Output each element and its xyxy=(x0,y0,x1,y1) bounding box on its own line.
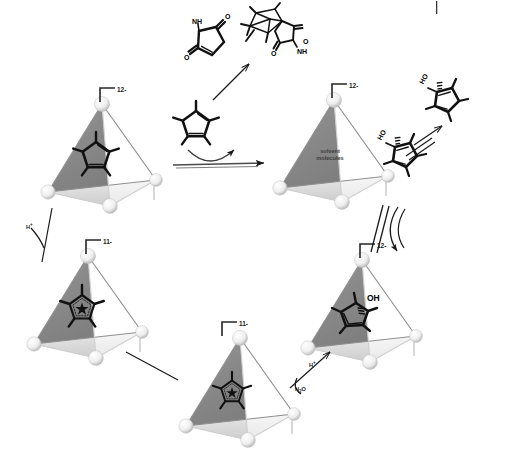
deprotonation-arrow xyxy=(31,208,52,262)
proton-charge: + xyxy=(30,222,33,227)
solvent-label-line1: solvent xyxy=(300,148,360,155)
diels-alder-arrow xyxy=(213,64,249,100)
host-cp-alcohol xyxy=(301,252,423,369)
charge-label-host-cp-anion-bottom: 11- xyxy=(239,320,248,327)
molecule-free-cyclopentadiene xyxy=(173,101,219,144)
crop-mark xyxy=(436,1,437,14)
charge-label-host-cp-neutral: 12- xyxy=(117,86,126,93)
charge-label-host-cp-anion-left: 11- xyxy=(103,238,112,245)
oxygen-label: O xyxy=(184,54,189,61)
host-cp-neutral xyxy=(41,96,163,213)
proton-label-left: H+ xyxy=(26,222,33,230)
proton-label-bottom: H+ xyxy=(309,360,316,368)
figure-canvas: 12- 12- 11- 11- 12- solvent molecules OH… xyxy=(0,0,505,453)
water-label: H2O xyxy=(295,386,306,394)
molecule-maleimide xyxy=(189,20,226,55)
charge-label-host-cp-alcohol: 12- xyxy=(377,242,386,249)
molecule-cyclopentadienol-lower xyxy=(384,134,426,176)
solvent-label-line2: molecules xyxy=(300,155,360,162)
host-cp-anion-bottom xyxy=(179,330,301,447)
host-cp-anion-left xyxy=(27,248,149,365)
nitrogen-hydrogen-label: NH xyxy=(192,18,202,25)
oxygen-label: O xyxy=(303,38,308,45)
molecule-diels-alder-adduct xyxy=(241,3,303,50)
oxygen-label: O xyxy=(225,13,230,20)
oxygen-label: O xyxy=(271,50,276,57)
figure-vector-layer xyxy=(0,0,505,453)
solvent-guest-label: solvent molecules xyxy=(300,148,360,162)
nitrogen-hydrogen-label: NH xyxy=(297,48,307,55)
water-o: O xyxy=(302,386,306,392)
encapsulation-reaction-arrow xyxy=(173,150,264,168)
molecule-cyclopentadienol-upper xyxy=(426,79,468,121)
proton-charge: + xyxy=(313,360,316,365)
charge-label-host-solvent: 12- xyxy=(349,82,358,89)
guest-exchange-arrow xyxy=(126,352,178,380)
hydroxyl-label: OH xyxy=(367,293,380,303)
